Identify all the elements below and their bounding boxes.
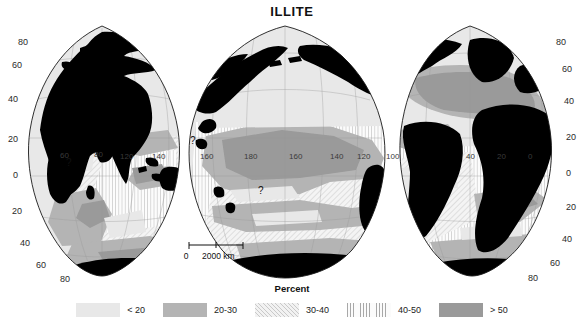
- lat-label-0-right: 0: [566, 168, 571, 178]
- lat-label-80s-left: 80: [60, 274, 70, 283]
- lon-label-140: 140: [152, 152, 166, 161]
- scale-bar: 0 2000 km: [184, 242, 243, 261]
- legend-label-40-50: 40-50: [398, 305, 421, 315]
- lat-label-60n-left: 60: [12, 60, 22, 70]
- lat-label-80n-right: 80: [556, 37, 566, 47]
- legend-item-30-40: 30-40: [255, 303, 329, 317]
- legend-label-lt20: < 20: [127, 305, 145, 315]
- lon-label-160: 160: [200, 152, 214, 161]
- lat-label-20s-left: 20: [12, 206, 22, 216]
- lat-label-60n-right: 60: [562, 64, 572, 74]
- map-canvas: 80 60 40 20 0 20 40 60 80 80 60 40 20 0 …: [0, 18, 584, 283]
- legend-swatch-30-40-icon: [255, 303, 299, 317]
- uncertainty-marker-2: ?: [190, 135, 196, 146]
- legend-label-30-40: 30-40: [306, 305, 329, 315]
- lon-label-160e: 160: [289, 152, 303, 161]
- legend-item-20-30: 20-30: [163, 303, 237, 317]
- legend-swatch-20-30-icon: [163, 303, 207, 317]
- legend-item-gt50: > 50: [439, 303, 508, 317]
- lon-label-180: 180: [244, 152, 258, 161]
- legend-item-40-50: 40-50: [347, 303, 421, 317]
- map-lobe-left: [20, 18, 195, 283]
- lon-label-120: 120: [120, 152, 134, 161]
- lat-label-40s-right: 40: [562, 234, 572, 244]
- lat-label-40n-left: 40: [8, 94, 18, 104]
- legend-swatch-40-50-icon: [347, 303, 391, 317]
- lon-label-120e: 120: [357, 152, 371, 161]
- uncertainty-marker-1: ?: [66, 157, 72, 168]
- scale-bar-label: 2000 km: [202, 251, 235, 261]
- scale-bar-zero: 0: [184, 251, 189, 261]
- legend-item-lt20: < 20: [76, 303, 145, 317]
- lon-label-0w: 0: [528, 152, 533, 161]
- lon-label-100: 100: [386, 152, 400, 161]
- legend-swatch-gt50-icon: [439, 303, 483, 317]
- lat-label-80n-left: 80: [18, 37, 28, 47]
- lat-label-60s-left: 60: [36, 260, 46, 270]
- legend-label-gt50: > 50: [490, 305, 508, 315]
- uncertainty-marker-3: ?: [258, 185, 264, 196]
- lon-label-140e: 140: [330, 152, 344, 161]
- lat-label-20n-right: 20: [566, 132, 576, 142]
- legend-swatch-lt20-icon: [76, 303, 120, 317]
- lat-label-0-left: 0: [13, 170, 18, 180]
- lon-label-40w: 40: [466, 152, 475, 161]
- legend-label-20-30: 20-30: [214, 305, 237, 315]
- lat-label-60s-right: 60: [550, 258, 560, 268]
- lat-label-20n-left: 20: [8, 134, 18, 144]
- map-title: ILLITE: [0, 4, 584, 19]
- lat-label-80s-right: 80: [528, 273, 538, 283]
- map-legend: Percent < 20 20-30 30-40 40-50 > 50: [0, 283, 584, 329]
- legend-title: Percent: [0, 283, 584, 294]
- lat-label-20s-right: 20: [566, 202, 576, 212]
- map-lobe-right: [392, 18, 560, 283]
- lat-label-40n-right: 40: [564, 96, 574, 106]
- illite-distribution-map: ILLITE: [0, 0, 584, 329]
- lon-label-20w: 20: [497, 152, 506, 161]
- legend-items: < 20 20-30 30-40 40-50 > 50: [0, 299, 584, 321]
- lat-label-40s-left: 40: [20, 238, 30, 248]
- lon-label-80: 80: [94, 150, 103, 159]
